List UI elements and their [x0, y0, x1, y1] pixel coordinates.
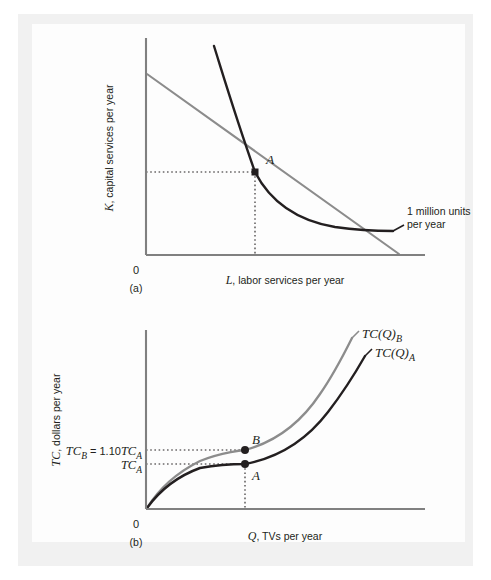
y-tick-tc-a-sub: A: [135, 465, 142, 475]
panel-a-x-axis-label: L, labor services per year: [225, 273, 345, 287]
curve-label-tc-q-b: TC(Q)B: [362, 326, 402, 344]
svg-text:TC, dollars per year: TC, dollars per year: [49, 373, 63, 466]
figure-root: A 1 million units per year K, capital se…: [0, 0, 491, 580]
y-tick-tc-b-eq: = 1.10: [87, 445, 121, 457]
panel-b-letter: (b): [130, 536, 143, 548]
tc-curve-b: [147, 338, 352, 508]
annotation-leader-panel-a: [393, 225, 404, 231]
y-tick-tc-b-main: TC: [66, 444, 82, 458]
curve-label-tc-q-b-main: TC(Q): [362, 326, 396, 341]
panel-b: B A TC(Q)B TC(Q)A TCB = 1.10TCA TCA: [49, 326, 425, 548]
panel-a-dotted-guides: [146, 172, 255, 255]
panel-a-letter: (a): [130, 282, 143, 294]
isoquant-annotation-line2: per year: [407, 218, 446, 230]
panel-b-x-axis-text: , TVs per year: [256, 530, 322, 542]
panel-b-x-axis-symbol: Q: [248, 529, 257, 543]
panel-b-x-axis-label: Q, TVs per year: [248, 529, 323, 543]
figure-canvas: A 1 million units per year K, capital se…: [0, 0, 491, 580]
y-tick-tc-a-main: TC: [121, 458, 137, 472]
curve-label-leader-b: [352, 331, 359, 338]
y-tick-tc-b-tail-sub: A: [135, 451, 142, 461]
curve-label-tc-q-b-sub: B: [396, 333, 402, 344]
point-marker-a-panel-b: [241, 460, 249, 468]
panel-b-origin-label: 0: [133, 518, 139, 530]
curve-label-leader-a: [365, 349, 372, 356]
panel-b-y-axis-text: , dollars per year: [50, 373, 62, 452]
panel-b-y-axis-label: TC, dollars per year: [49, 373, 63, 466]
panel-b-y-axis-symbol: TC: [49, 451, 63, 467]
panel-a-y-axis-text: , capital services per year: [103, 84, 115, 204]
svg-text:K, capital services per year: K, capital services per year: [102, 84, 116, 213]
curve-label-tc-q-a: TC(Q)A: [375, 345, 416, 363]
point-marker-a-panel-a: [252, 169, 259, 176]
point-label-a-panel-a: A: [265, 152, 275, 167]
curve-label-tc-q-a-main: TC(Q): [375, 345, 409, 360]
point-marker-b-panel-b: [241, 446, 249, 454]
isoquant-annotation-line1: 1 million units: [407, 205, 471, 217]
y-tick-tc-b-tail: TC: [121, 444, 137, 458]
panel-b-dotted-guides: [146, 450, 245, 509]
panel-a: A 1 million units per year K, capital se…: [102, 38, 471, 294]
panel-a-x-axis-text: , labor services per year: [232, 274, 345, 286]
point-label-b-panel-b: B: [252, 432, 260, 447]
panel-a-origin-label: 0: [133, 264, 139, 276]
panel-a-y-axis-label: K, capital services per year: [102, 84, 116, 213]
curve-label-tc-q-a-sub: A: [408, 352, 416, 363]
isoquant-curve: [214, 46, 393, 231]
point-label-a-panel-b: A: [251, 468, 260, 483]
